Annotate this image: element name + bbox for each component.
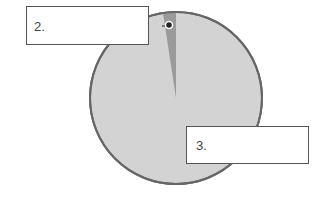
- label-3: 3.: [196, 138, 207, 153]
- label-2: 2.: [34, 19, 45, 34]
- leader-dot: [166, 22, 173, 29]
